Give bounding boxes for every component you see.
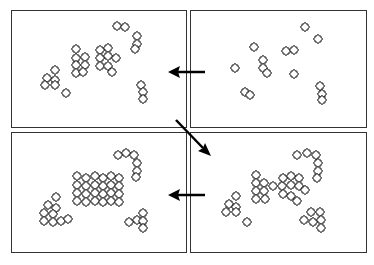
- pieces-bottom-left: [40, 149, 148, 233]
- arrow-bottom-right-to-bottom-left: [168, 189, 205, 201]
- pieces-top-right: [231, 23, 327, 105]
- pieces-bottom-right: [222, 149, 326, 233]
- pieces-top-left: [41, 22, 148, 104]
- arrow-top-left-to-bottom-right: [176, 120, 211, 156]
- puzzle-illustration: [0, 0, 374, 265]
- arrow-top-right-to-top-left: [168, 66, 205, 78]
